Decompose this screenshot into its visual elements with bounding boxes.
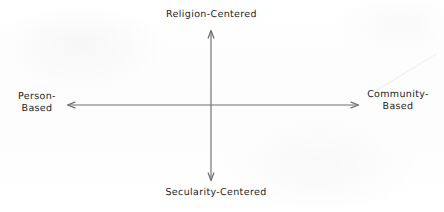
axis-label-bottom: Secularity-Centered xyxy=(0,187,432,199)
axis-label-right: Community- Based xyxy=(363,89,433,113)
horizontal-axis xyxy=(68,102,359,108)
axis-label-left-line1: Person- xyxy=(6,91,68,103)
axis-label-right-line1: Community- xyxy=(363,89,433,101)
diagram-canvas: Religion-Centered Secularity-Centered Pe… xyxy=(0,0,444,212)
axis-label-left-line2: Based xyxy=(6,103,68,115)
axis-label-top: Religion-Centered xyxy=(0,9,423,21)
axis-label-left: Person- Based xyxy=(6,91,68,115)
axis-label-right-line2: Based xyxy=(363,101,433,113)
